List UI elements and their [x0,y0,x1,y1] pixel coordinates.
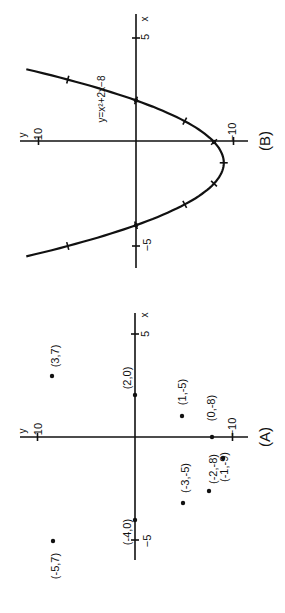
parabola-point-marks [67,76,228,250]
y-axis-label: y [17,133,28,138]
data-point [210,435,214,439]
panel-a-scatter-plot: (-5,7)(3,7)(-4,0)(2,0)(-3,-5)(1,-5)(-2,-… [17,313,273,580]
intercept-dot [134,98,138,102]
tick-label-y-10: 10 [32,423,44,435]
data-point-label: (-5,7) [49,553,61,579]
data-point-label: (3,7) [49,345,61,368]
data-point [133,393,137,397]
data-point [181,501,185,505]
panel-b-caption: (B) [256,131,273,151]
tick-label-x-neg5: −5 [141,239,153,252]
data-point [180,414,184,418]
data-point [207,489,211,493]
data-point-label: (-3,-5) [179,463,191,493]
panel-a-points [50,374,225,543]
tick-label-y-neg10: −10 [226,123,238,142]
data-point [51,539,55,543]
data-point [133,518,137,522]
tick-label-y-neg10: −10 [226,418,238,437]
panel-b-labels: x5−5y10−10y=x²+2x−8(B) [17,17,273,252]
data-point-label: (1,-5) [176,379,188,405]
x-axis-label: x [139,17,150,22]
curve-point-mark [67,76,69,84]
y-axis-label: y [17,429,28,434]
intercept-dot [212,140,216,144]
curve-equation-label: y=x²+2x−8 [96,75,107,122]
data-point-label: (0,-8) [205,395,217,421]
panel-b-parabola-plot: x5−5y10−10y=x²+2x−8(B) [17,14,273,268]
intercept-dot [134,223,138,227]
data-point-label: (2,0) [121,367,133,390]
data-point-label: (-1,-9) [218,452,230,482]
tick-label-x-neg5: −5 [141,535,153,548]
tick-label-y-10: 10 [32,128,44,140]
figure: x5−5y10−10y=x²+2x−8(B) (-5,7)(3,7)(-4,0)… [0,0,285,613]
curve-point-mark [67,242,69,250]
panel-a-labels: (-5,7)(3,7)(-4,0)(2,0)(-3,-5)(1,-5)(-2,-… [17,313,273,580]
tick-label-x-5: 5 [139,34,151,40]
parabola-curve [26,69,224,256]
panel-a-caption: (A) [256,427,273,447]
x-axis-label: x [139,313,150,318]
tick-label-x-5: 5 [139,331,151,337]
data-point-label: (-4,0) [121,519,133,545]
data-point [50,374,54,378]
